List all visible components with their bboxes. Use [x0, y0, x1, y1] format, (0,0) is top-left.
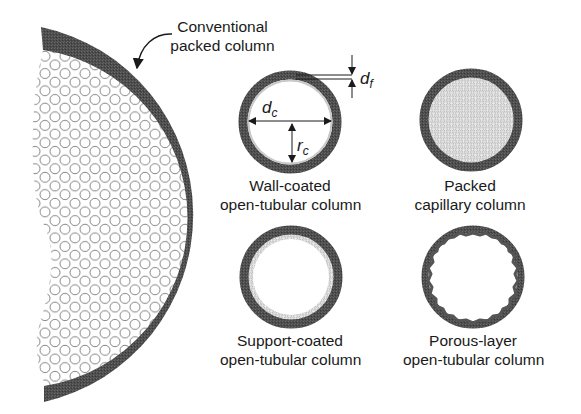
label-line-1: Packed — [405, 176, 535, 195]
wall-coated-column: df dc rc — [243, 55, 374, 169]
porous-layer-column — [425, 229, 521, 325]
wall-coated-column-label: Wall-coated open-tubular column — [220, 176, 360, 214]
conventional-packed-column — [33, 27, 194, 402]
packed-capillary-column-label: Packed capillary column — [405, 176, 535, 214]
porous-layer-column-label: Porous-layer open-tubular column — [403, 331, 543, 369]
packed-capillary-column — [424, 73, 518, 167]
label-line-2: open-tubular column — [403, 350, 543, 369]
packing-bed — [33, 50, 189, 386]
label-line-2: open-tubular column — [220, 350, 360, 369]
label-line-2: packed column — [160, 36, 285, 55]
label-line-1: Conventional — [160, 17, 285, 36]
label-line-2: capillary column — [405, 195, 535, 214]
conventional-packed-column-label: Conventional packed column — [160, 17, 285, 55]
porous-layer — [428, 233, 518, 323]
label-line-1: Porous-layer — [403, 331, 543, 350]
label-line-2: open-tubular column — [220, 195, 360, 214]
label-line-1: Wall-coated — [220, 176, 360, 195]
support-coated-column-label: Support-coated open-tubular column — [220, 331, 360, 369]
film-thickness-symbol: df — [360, 69, 374, 91]
label-line-1: Support-coated — [220, 331, 360, 350]
support-coated-column — [244, 230, 338, 324]
